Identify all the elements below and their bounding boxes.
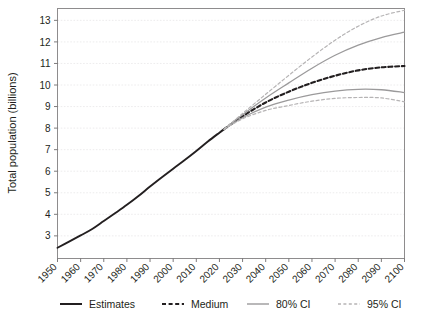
x-tick-label: 2070 (313, 261, 337, 285)
y-tick-label: 11 (40, 58, 51, 69)
x-tick-label: 2100 (382, 261, 406, 285)
x-tick-label: 2080 (336, 261, 360, 285)
legend-label-estimates: Estimates (89, 298, 135, 310)
x-axis-tick-labels: 1950196019701980199020002010202020302040… (35, 261, 406, 285)
y-tick-label: 9 (45, 101, 51, 112)
y-axis-ticks (54, 20, 58, 236)
series-80-ci-upper (224, 32, 404, 129)
y-tick-label: 12 (39, 37, 51, 48)
x-tick-label: 1960 (59, 261, 83, 285)
y-tick-label: 6 (45, 166, 51, 177)
legend-label-95-ci: 95% CI (367, 298, 401, 310)
y-tick-label: 4 (45, 209, 51, 220)
y-tick-label: 8 (45, 123, 51, 134)
x-tick-label: 2030 (220, 261, 244, 285)
x-tick-label: 1950 (35, 261, 59, 285)
y-axis-title: Total population (billions) (6, 72, 18, 193)
x-tick-label: 1990 (128, 261, 152, 285)
x-tick-label: 1980 (105, 261, 129, 285)
series-estimates (58, 129, 225, 248)
y-tick-label: 13 (39, 15, 51, 26)
x-tick-label: 2050 (267, 261, 291, 285)
y-tick-label: 7 (45, 144, 51, 155)
data-series-group (58, 10, 405, 248)
y-axis-tick-labels: 345678910111213 (39, 15, 51, 242)
series-80-ci-lower (224, 89, 404, 129)
x-tick-label: 2010 (174, 261, 198, 285)
x-tick-label: 2040 (244, 261, 268, 285)
x-axis-ticks (58, 259, 405, 263)
x-tick-label: 1970 (82, 261, 106, 285)
population-projection-chart: 345678910111213 195019601970198019902000… (0, 0, 421, 320)
legend-label-80-ci: 80% CI (276, 298, 310, 310)
y-tick-label: 10 (39, 80, 51, 91)
plot-frame (58, 9, 405, 259)
x-tick-label: 2060 (290, 261, 314, 285)
gridlines-group (58, 20, 405, 236)
x-tick-label: 2020 (197, 261, 221, 285)
y-tick-label: 5 (45, 187, 51, 198)
chart-figure: 345678910111213 195019601970198019902000… (0, 0, 421, 320)
y-tick-label: 3 (45, 230, 51, 241)
x-tick-label: 2090 (359, 261, 383, 285)
legend: EstimatesMedium80% CI95% CI (60, 298, 401, 310)
x-tick-label: 2000 (151, 261, 175, 285)
legend-label-medium: Medium (191, 298, 229, 310)
